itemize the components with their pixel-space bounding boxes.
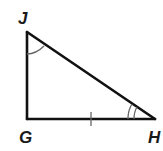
- vertex-label-h: H: [148, 128, 161, 147]
- angle-arc-h-outer: [128, 104, 132, 119]
- angle-arc-h-inner: [134, 107, 137, 119]
- side-hj: [27, 32, 155, 119]
- vertex-label-g: G: [19, 128, 32, 147]
- vertex-label-j: J: [18, 9, 28, 28]
- angle-arc-j: [27, 46, 44, 54]
- triangle-diagram: J G H: [0, 0, 163, 151]
